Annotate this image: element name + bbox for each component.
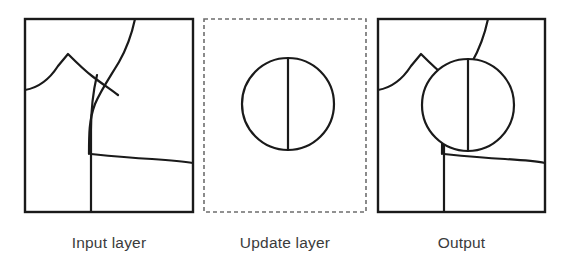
update-layer-label: Update layer bbox=[204, 234, 366, 252]
panel-input-layer bbox=[25, 19, 193, 212]
panel-output bbox=[378, 19, 545, 212]
input-layer-label: Input layer bbox=[25, 234, 193, 252]
output-label: Output bbox=[378, 234, 545, 252]
input-panel-border bbox=[25, 19, 193, 212]
panel-update-layer bbox=[204, 19, 366, 212]
output-panel-border bbox=[378, 19, 545, 212]
